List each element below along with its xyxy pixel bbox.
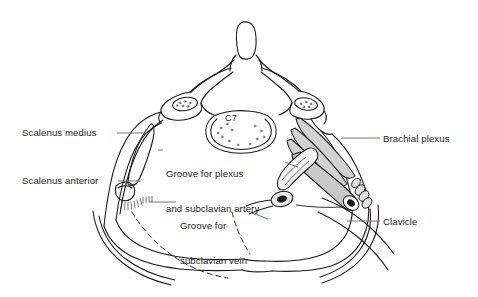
- label-groove-for-subclavian-vein: Groove for subclavian vein: [180, 197, 247, 278]
- label-scalenus-anterior: Scalenus anterior: [22, 175, 98, 187]
- label-clavicle: Clavicle: [383, 216, 417, 228]
- label-brachial-plexus: Brachial plexus: [383, 133, 450, 145]
- label-groove-for-vein-line2: subclavian vein: [180, 255, 247, 267]
- label-groove-for-vein-line1: Groove for: [180, 220, 247, 232]
- label-vertebra-c7: C7: [225, 113, 237, 123]
- label-scalenus-medius: Scalenus medius: [22, 127, 97, 139]
- label-groove-for-plexus-line1: Groove for plexus: [166, 168, 259, 180]
